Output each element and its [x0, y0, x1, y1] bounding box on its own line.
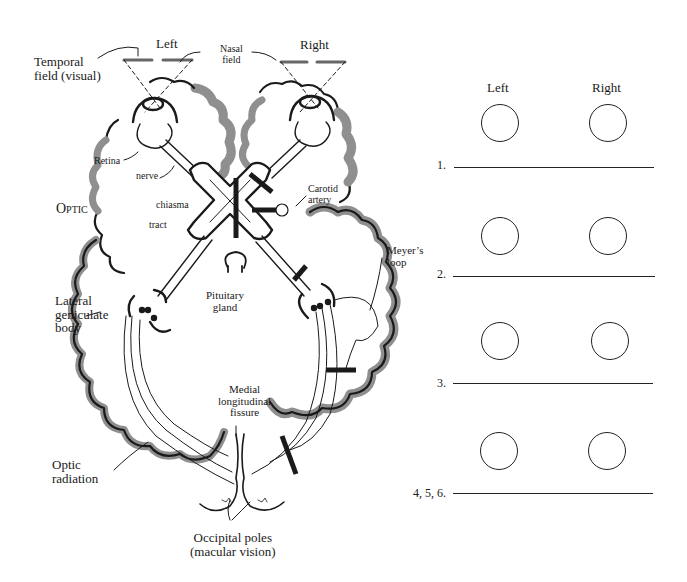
- left-eye: [133, 98, 177, 148]
- field-circle-3-left[interactable]: [481, 322, 519, 360]
- field-circle-1-left[interactable]: [481, 104, 519, 142]
- label-nasal-field-line1: Nasal: [220, 44, 243, 55]
- row-number-1: 1.: [406, 158, 446, 173]
- row-number-4-5-6: 4, 5, 6.: [396, 486, 446, 501]
- field-circle-1-right[interactable]: [589, 104, 627, 142]
- right-eye: [290, 96, 334, 146]
- label-nasal-field: Nasal field: [220, 44, 243, 65]
- visual-pathway-diagram: [0, 0, 687, 582]
- answer-line-2[interactable]: [453, 276, 655, 277]
- label-carotid-line2: artery: [308, 195, 338, 206]
- answer-line-4-5-6[interactable]: [453, 493, 653, 494]
- label-medial-longitudinal-fissure: Medial longitudinal fissure: [218, 384, 271, 419]
- pointer-arrows: [86, 47, 382, 520]
- label-pituitary-line2: gland: [206, 302, 244, 314]
- label-chiasma: chiasma: [156, 200, 189, 211]
- label-occipital-poles: Occipital poles (macular vision): [190, 531, 276, 558]
- label-carotid-artery: Carotid artery: [308, 184, 338, 205]
- answer-line-3[interactable]: [453, 383, 653, 384]
- label-pituitary-gland: Pituitary gland: [206, 290, 244, 313]
- field-circle-2-right[interactable]: [589, 217, 627, 255]
- label-left-eye: Left: [156, 37, 178, 51]
- label-temporal-field-line1: Temporal: [34, 55, 101, 69]
- label-meyers-loop: Meyer’s loop: [387, 245, 423, 268]
- field-circle-4-right[interactable]: [588, 432, 626, 470]
- label-occipital-line2: (macular vision): [190, 545, 276, 559]
- label-optic: Optic: [56, 202, 88, 217]
- field-circle-4-left[interactable]: [480, 432, 518, 470]
- label-medial-line3: fissure: [218, 407, 271, 419]
- answer-line-1[interactable]: [454, 167, 654, 168]
- worksheet-col-right: Right: [592, 80, 621, 96]
- label-meyers-line1: Meyer’s: [387, 245, 423, 257]
- label-lgb-line1: Lateral: [55, 294, 108, 308]
- label-tract: tract: [149, 220, 167, 231]
- label-temporal-field: Temporal field (visual): [34, 55, 101, 82]
- label-temporal-field-line2: field (visual): [34, 69, 101, 83]
- label-medial-line1: Medial: [218, 384, 271, 396]
- label-lgb-line3: body: [55, 321, 108, 335]
- optic-chiasm: [188, 163, 272, 239]
- label-optic-rad-line1: Optic: [52, 458, 98, 472]
- row-number-2: 2.: [406, 267, 446, 282]
- label-nerve: nerve: [136, 171, 158, 182]
- row-number-3: 3.: [406, 376, 446, 391]
- label-lgb-line2: geniculate: [55, 308, 108, 322]
- label-occipital-line1: Occipital poles: [190, 531, 276, 545]
- label-lateral-geniculate-body: Lateral geniculate body: [55, 294, 108, 335]
- label-carotid-line1: Carotid: [308, 184, 338, 195]
- worksheet-col-left: Left: [487, 80, 509, 96]
- label-nasal-field-line2: field: [220, 55, 243, 66]
- label-optic-radiation: Optic radiation: [52, 458, 98, 485]
- label-right-eye: Right: [300, 38, 329, 52]
- lgb-right: [299, 284, 334, 318]
- carotid-artery: [276, 204, 288, 216]
- label-retina: Retina: [94, 156, 120, 167]
- field-circle-2-left[interactable]: [481, 217, 519, 255]
- label-pituitary-line1: Pituitary: [206, 290, 244, 302]
- field-circle-3-right[interactable]: [591, 322, 629, 360]
- pituitary-gland: [225, 252, 245, 272]
- lgb-left: [129, 290, 170, 332]
- occipital-poles: [200, 434, 284, 511]
- label-optic-rad-line2: radiation: [52, 472, 98, 486]
